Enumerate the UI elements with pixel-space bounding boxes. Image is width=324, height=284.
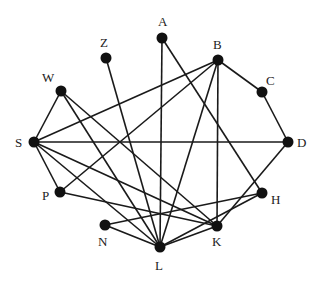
node-l — [155, 242, 166, 253]
node-label-w: W — [42, 70, 55, 85]
node-label-p: P — [42, 188, 49, 203]
node-p — [55, 187, 66, 198]
edge-h-l — [160, 193, 262, 247]
edge-a-l — [160, 38, 162, 247]
edge-s-p — [34, 142, 60, 192]
node-label-z: Z — [100, 35, 108, 50]
node-h — [257, 188, 268, 199]
node-n — [100, 220, 111, 231]
node-w — [56, 86, 67, 97]
edge-p-k — [60, 192, 217, 226]
edge-b-k — [217, 60, 218, 226]
edge-a-h — [162, 38, 262, 193]
edge-c-d — [262, 92, 288, 142]
node-label-s: S — [15, 135, 22, 150]
node-d — [283, 137, 294, 148]
node-a — [157, 33, 168, 44]
edge-b-c — [218, 60, 262, 92]
node-label-k: K — [212, 234, 222, 249]
edges-group — [34, 38, 288, 247]
edge-w-k — [61, 91, 217, 226]
node-label-h: H — [271, 192, 280, 207]
node-k — [212, 221, 223, 232]
node-z — [101, 53, 112, 64]
graph-diagram: AZBWCSDPHNKL — [0, 0, 324, 284]
node-label-a: A — [158, 14, 168, 29]
edge-s-l — [34, 142, 160, 247]
node-label-n: N — [98, 234, 108, 249]
edge-s-k — [34, 142, 217, 226]
edge-n-l — [105, 225, 160, 247]
edge-d-k — [217, 142, 288, 226]
node-s — [29, 137, 40, 148]
node-label-c: C — [266, 73, 275, 88]
node-b — [213, 55, 224, 66]
edge-s-w — [34, 91, 61, 142]
edge-k-l — [160, 226, 217, 247]
node-label-d: D — [297, 135, 306, 150]
node-label-l: L — [155, 258, 163, 273]
node-label-b: B — [213, 37, 222, 52]
node-c — [257, 87, 268, 98]
